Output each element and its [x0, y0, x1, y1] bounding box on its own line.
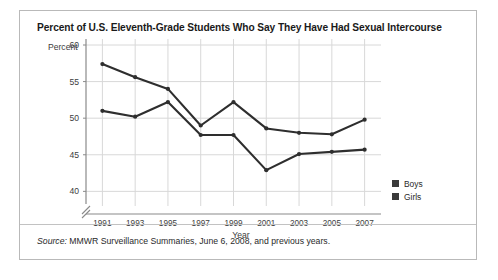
data-point — [264, 168, 268, 172]
legend-swatch-icon — [392, 193, 399, 200]
source-note: Source: MMWR Surveillance Summaries, Jun… — [37, 236, 330, 246]
legend-label: Boys — [404, 179, 423, 189]
divider — [20, 224, 476, 225]
data-point — [264, 126, 268, 130]
data-point — [231, 100, 235, 104]
data-point — [133, 75, 137, 79]
chart-legend: Boys Girls — [392, 177, 423, 203]
data-point — [297, 152, 301, 156]
y-tick-label: 40 — [61, 186, 79, 196]
data-point — [166, 87, 170, 91]
data-point — [100, 62, 104, 66]
data-point — [133, 115, 137, 119]
legend-item-girls: Girls — [392, 190, 423, 203]
data-point — [166, 100, 170, 104]
data-point — [330, 132, 334, 136]
figure-panel: Percent of U.S. Eleventh-Grade Students … — [19, 10, 477, 260]
legend-swatch-icon — [392, 180, 399, 187]
data-point — [330, 150, 334, 154]
legend-label: Girls — [404, 192, 421, 202]
y-tick-label: 50 — [61, 113, 79, 123]
data-point — [231, 133, 235, 137]
data-point — [100, 109, 104, 113]
data-point — [297, 131, 301, 135]
data-point — [363, 148, 367, 152]
data-point — [363, 118, 367, 122]
axis-break-icon — [82, 206, 90, 214]
y-tick-label: 55 — [61, 77, 79, 87]
data-point — [199, 133, 203, 137]
y-tick-label: 45 — [61, 150, 79, 160]
source-text: MMWR Surveillance Summaries, June 6, 200… — [67, 236, 330, 246]
source-label: Source: — [37, 236, 67, 246]
legend-item-boys: Boys — [392, 177, 423, 190]
data-point — [199, 123, 203, 127]
y-tick-label: 60 — [61, 40, 79, 50]
